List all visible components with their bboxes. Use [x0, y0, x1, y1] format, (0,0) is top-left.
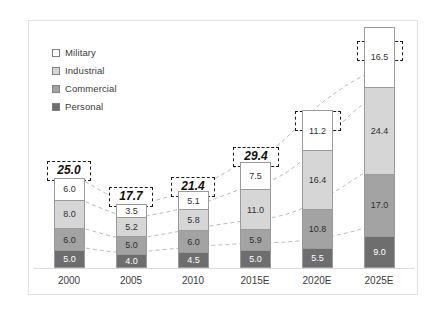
bar-2010: 5.1 5.8 6.0 4.5 — [178, 191, 209, 268]
segment-personal-2010: 4.5 — [178, 252, 209, 268]
segment-industrial-2015E: 11.0 — [240, 189, 271, 229]
segment-industrial-2020E: 16.4 — [302, 150, 333, 209]
segment-personal-2000: 5.0 — [54, 250, 85, 268]
segment-personal-2015E: 5.0 — [240, 250, 271, 268]
segment-industrial-2000: 8.0 — [54, 200, 85, 229]
plot-area: 25.0 6.0 8.0 6.0 5.0 17.7 3.5 5.2 5.0 4.… — [0, 0, 445, 309]
segment-commercial-2000: 6.0 — [54, 228, 85, 250]
segment-commercial-2020E: 10.8 — [302, 209, 333, 248]
segment-military-2015E: 7.5 — [240, 162, 271, 189]
segment-commercial-2010: 6.0 — [178, 230, 209, 252]
segment-industrial-2005: 5.2 — [116, 217, 147, 236]
segment-military-2025E: 16.5 — [364, 27, 395, 86]
xtick-2020E: 2020E — [287, 275, 347, 286]
segment-commercial-2025E: 17.0 — [364, 174, 395, 235]
bar-2015E: 7.5 11.0 5.9 5.0 — [240, 162, 271, 268]
stacked-bar-chart: Military Industrial Commercial Personal … — [0, 0, 445, 309]
xtick-2005: 2005 — [101, 275, 161, 286]
segment-personal-2020E: 5.5 — [302, 248, 333, 268]
segment-commercial-2005: 5.0 — [116, 236, 147, 254]
bar-2025E: 16.5 24.4 17.0 9.0 — [364, 27, 395, 268]
segment-military-2020E: 11.2 — [302, 110, 333, 150]
bar-2000: 6.0 8.0 6.0 5.0 — [54, 178, 85, 268]
segment-commercial-2015E: 5.9 — [240, 229, 271, 250]
segment-personal-2005: 4.0 — [116, 254, 147, 268]
xtick-2000: 2000 — [39, 275, 99, 286]
category-axis-line — [34, 268, 414, 269]
segment-industrial-2010: 5.8 — [178, 209, 209, 230]
xtick-2025E: 2025E — [349, 275, 409, 286]
xtick-2010: 2010 — [163, 275, 223, 286]
segment-military-2000: 6.0 — [54, 178, 85, 200]
segment-military-2005: 3.5 — [116, 204, 147, 217]
segment-industrial-2025E: 24.4 — [364, 87, 395, 175]
xtick-2015E: 2015E — [225, 275, 285, 286]
segment-military-2010: 5.1 — [178, 191, 209, 209]
bar-2005: 3.5 5.2 5.0 4.0 — [116, 204, 147, 268]
segment-personal-2025E: 9.0 — [364, 236, 395, 268]
bar-2020E: 11.2 16.4 10.8 5.5 — [302, 110, 333, 268]
